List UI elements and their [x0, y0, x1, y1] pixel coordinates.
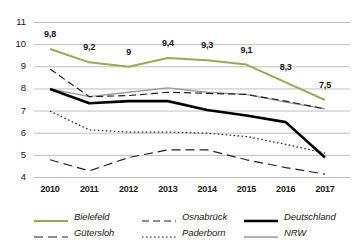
legend-item-osnabrueck[interactable]: Osnabrück [142, 209, 227, 224]
legend-item-guetersloh[interactable]: Gütersloh [34, 225, 114, 240]
legend-label-guetersloh: Gütersloh [74, 227, 114, 238]
legend-label-deutschland: Deutschland [284, 211, 336, 222]
legend-label-bielefeld: Bielefeld [74, 211, 110, 222]
value-label: 9,4 [155, 38, 181, 48]
x-tick-label: 2015 [229, 184, 263, 194]
x-tick-label: 2011 [72, 184, 106, 194]
legend-item-bielefeld[interactable]: Bielefeld [34, 209, 110, 224]
y-tick-label: 5 [8, 149, 26, 160]
legend-label-osnabrueck: Osnabrück [182, 211, 227, 222]
legend-item-nrw[interactable]: NRW [244, 225, 306, 240]
value-label: 9,8 [37, 29, 63, 39]
legend-swatch-nrw [244, 228, 278, 238]
legend-item-paderborn[interactable]: Paderborn [142, 225, 225, 240]
y-tick-label: 10 [8, 38, 26, 49]
series-line-deutschland [50, 89, 325, 158]
value-label: 9,2 [76, 42, 102, 52]
legend-row: BielefeldOsnabrückDeutschland [34, 209, 350, 224]
legend-swatch-guetersloh [34, 228, 68, 238]
y-tick-label: 4 [8, 171, 26, 182]
x-tick-label: 2013 [151, 184, 185, 194]
value-label: 7,5 [312, 80, 338, 90]
series-line-gtersloh [50, 150, 325, 174]
legend-swatch-deutschland [244, 212, 278, 222]
legend-swatch-bielefeld [34, 212, 68, 222]
y-tick-label: 7 [8, 105, 26, 116]
x-tick-label: 2010 [33, 184, 67, 194]
value-label: 9,1 [233, 45, 259, 55]
legend-swatch-paderborn [142, 228, 176, 238]
y-tick-label: 11 [8, 16, 26, 27]
legend-label-nrw: NRW [284, 227, 306, 238]
chart-legend: BielefeldOsnabrückDeutschlandGüterslohPa… [34, 209, 350, 243]
y-tick-label: 6 [8, 127, 26, 138]
y-tick-label: 9 [8, 60, 26, 71]
legend-label-paderborn: Paderborn [182, 227, 225, 238]
x-tick-label: 2012 [112, 184, 146, 194]
series-line-paderborn [50, 111, 325, 153]
value-label: 9 [116, 47, 142, 57]
value-label: 9,3 [194, 40, 220, 50]
y-tick-label: 8 [8, 82, 26, 93]
legend-item-deutschland[interactable]: Deutschland [244, 209, 336, 224]
x-tick-label: 2014 [190, 184, 224, 194]
x-tick-label: 2016 [269, 184, 303, 194]
line-chart: 4567891011 20102011201220132014201520162… [0, 0, 358, 248]
legend-row: GüterslohPaderbornNRW [34, 225, 350, 240]
x-tick-label: 2017 [308, 184, 342, 194]
legend-swatch-osnabrueck [142, 212, 176, 222]
value-label: 8,3 [273, 62, 299, 72]
